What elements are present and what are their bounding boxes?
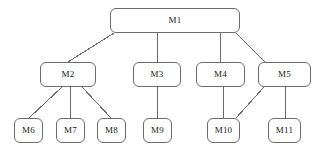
node-m10[interactable]: M10 — [207, 118, 240, 143]
node-label-m6: M6 — [22, 126, 35, 135]
node-label-m9: M9 — [151, 126, 164, 135]
edge-m5-to-m10 — [236, 87, 264, 118]
edge-m2-to-m8 — [82, 87, 111, 118]
node-label-m5: M5 — [278, 70, 291, 79]
node-label-m10: M10 — [215, 126, 233, 135]
node-m9[interactable]: M9 — [143, 118, 172, 143]
node-m8[interactable]: M8 — [97, 118, 126, 143]
node-label-m4: M4 — [214, 70, 227, 79]
node-label-m8: M8 — [105, 126, 118, 135]
node-label-m7: M7 — [64, 126, 77, 135]
edge-m2-to-m6 — [29, 87, 62, 118]
edge-m1-to-m2 — [68, 33, 114, 62]
node-m1[interactable]: M1 — [110, 8, 240, 33]
node-m7[interactable]: M7 — [56, 118, 85, 143]
node-m11[interactable]: M11 — [268, 118, 301, 143]
node-m2[interactable]: M2 — [40, 62, 96, 87]
edge-m1-to-m5 — [236, 33, 265, 62]
node-label-m2: M2 — [62, 70, 75, 79]
hierarchy-diagram: M1M2M3M4M5M6M7M8M9M10M11 — [0, 0, 328, 151]
node-m6[interactable]: M6 — [14, 118, 43, 143]
node-m5[interactable]: M5 — [258, 62, 311, 87]
node-m4[interactable]: M4 — [196, 62, 245, 87]
node-label-m11: M11 — [276, 126, 293, 135]
node-m3[interactable]: M3 — [133, 62, 181, 87]
node-label-m3: M3 — [151, 70, 164, 79]
node-label-m1: M1 — [169, 16, 182, 25]
